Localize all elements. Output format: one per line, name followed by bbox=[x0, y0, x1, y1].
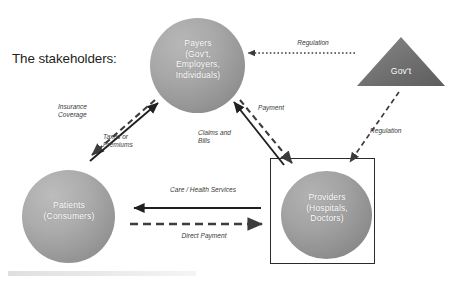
diagram-canvas: The stakeholders: Payers (Gov't, Employe… bbox=[0, 0, 451, 282]
edge-insurance-coverage bbox=[92, 100, 155, 155]
edge-layer bbox=[0, 0, 451, 282]
edge-regulation-providers bbox=[350, 92, 399, 162]
edge-payment bbox=[240, 100, 292, 163]
scan-artifact bbox=[8, 271, 196, 276]
edge-taxes-or-premiums bbox=[90, 103, 158, 161]
edge-claims-and-bills bbox=[234, 102, 284, 165]
